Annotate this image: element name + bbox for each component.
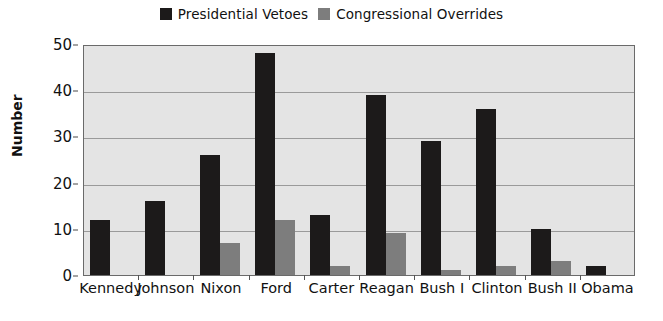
legend-label-presidential-vetoes: Presidential Vetoes xyxy=(178,6,308,22)
bar-vetoes xyxy=(586,266,606,275)
x-axis-tick-label: Johnson xyxy=(137,280,194,296)
bar-group xyxy=(470,46,525,275)
bar-vetoes xyxy=(421,141,441,275)
bar-vetoes xyxy=(310,215,330,275)
bar-vetoes xyxy=(90,220,110,275)
bar-chart: Number 01020304050 KennedyJohnsonNixonFo… xyxy=(0,28,663,321)
legend-swatch-presidential-vetoes xyxy=(160,8,172,20)
y-axis-tick-mark xyxy=(73,91,78,92)
bar-overrides xyxy=(441,270,461,275)
y-axis-tick-label: 20 xyxy=(53,175,72,193)
x-axis-tick-mark xyxy=(304,275,305,280)
bar-group xyxy=(84,46,139,275)
y-axis-tick-mark xyxy=(73,45,78,46)
y-axis-tick-mark xyxy=(73,137,78,138)
bar-overrides xyxy=(496,266,516,275)
bar-vetoes xyxy=(255,53,275,275)
bar-vetoes xyxy=(366,95,386,275)
bar-overrides xyxy=(551,261,571,275)
y-axis-tick-labels: 01020304050 xyxy=(30,45,78,276)
x-axis-tick-mark xyxy=(249,275,250,280)
bar-overrides xyxy=(330,266,350,275)
y-axis-tick-label: 40 xyxy=(53,82,72,100)
y-axis-tick-label: 10 xyxy=(53,221,72,239)
bar-vetoes xyxy=(200,155,220,275)
x-axis-tick-mark xyxy=(580,275,581,280)
bar-overrides xyxy=(386,233,406,275)
bar-vetoes xyxy=(476,109,496,275)
x-axis-tick-mark xyxy=(138,275,139,280)
y-axis-tick-mark xyxy=(73,276,78,277)
bar-group xyxy=(526,46,581,275)
legend-entry-congressional-overrides: Congressional Overrides xyxy=(318,6,503,22)
x-axis-tick-label: Bush I xyxy=(419,280,464,296)
legend-swatch-congressional-overrides xyxy=(318,8,330,20)
plot-area xyxy=(83,45,635,276)
bar-group xyxy=(305,46,360,275)
bar-group xyxy=(194,46,249,275)
x-axis-tick-mark xyxy=(525,275,526,280)
y-axis-tick-label: 0 xyxy=(62,267,72,285)
bar-group xyxy=(360,46,415,275)
bar-group xyxy=(250,46,305,275)
x-axis-tick-mark xyxy=(193,275,194,280)
bar-group xyxy=(139,46,194,275)
bars-layer xyxy=(84,46,634,275)
bar-overrides xyxy=(220,243,240,275)
x-axis-tick-label: Ford xyxy=(260,280,292,296)
bar-group xyxy=(415,46,470,275)
y-axis-tick-mark xyxy=(73,229,78,230)
y-axis-tick-mark xyxy=(73,183,78,184)
legend-label-congressional-overrides: Congressional Overrides xyxy=(336,6,503,22)
bar-overrides xyxy=(275,220,295,275)
x-axis-tick-label: Obama xyxy=(581,280,634,296)
bar-group xyxy=(581,46,636,275)
y-axis-title: Number xyxy=(9,135,25,157)
x-axis-tick-labels: KennedyJohnsonNixonFordCarterReaganBush … xyxy=(83,280,635,310)
x-axis-tick-mark xyxy=(469,275,470,280)
bar-vetoes xyxy=(145,201,165,275)
bar-vetoes xyxy=(531,229,551,275)
chart-legend: Presidential Vetoes Congressional Overri… xyxy=(0,6,663,22)
y-axis-tick-label: 50 xyxy=(53,36,72,54)
x-axis-tick-label: Bush II xyxy=(528,280,577,296)
x-axis-tick-label: Clinton xyxy=(471,280,522,296)
legend-entry-presidential-vetoes: Presidential Vetoes xyxy=(160,6,308,22)
x-axis-tick-mark xyxy=(414,275,415,280)
x-axis-tick-label: Nixon xyxy=(200,280,241,296)
y-axis-tick-label: 30 xyxy=(53,128,72,146)
x-axis-tick-mark xyxy=(359,275,360,280)
x-axis-tick-label: Kennedy xyxy=(79,280,142,296)
x-axis-tick-label: Reagan xyxy=(359,280,414,296)
x-axis-tick-label: Carter xyxy=(309,280,355,296)
